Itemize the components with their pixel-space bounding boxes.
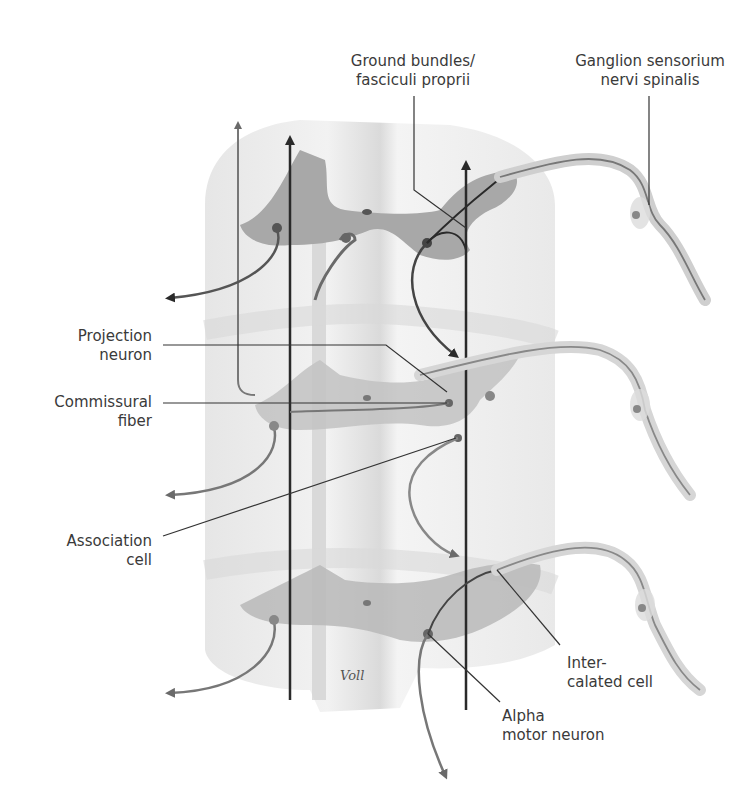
artist-signature: Voll <box>340 668 364 683</box>
label-alpha-motor-neuron: Alpha motor neuron <box>502 707 632 745</box>
label-association-cell-line1: Association <box>20 532 152 551</box>
label-association-cell: Association cell <box>20 532 152 570</box>
label-commissural-fiber-line2: fiber <box>20 412 152 431</box>
label-commissural-fiber: Commissural fiber <box>20 393 152 431</box>
label-ground-bundles: Ground bundles/ fasciculi proprii <box>338 52 488 90</box>
label-intercalated-cell-line1: Inter- <box>567 654 687 673</box>
label-projection-neuron-line2: neuron <box>20 346 152 365</box>
label-ground-bundles-line1: Ground bundles/ <box>338 52 488 71</box>
label-projection-neuron-line1: Projection <box>20 327 152 346</box>
label-intercalated-cell-line2: calated cell <box>567 673 687 692</box>
label-ganglion: Ganglion sensorium nervi spinalis <box>562 52 738 90</box>
label-ground-bundles-line2: fasciculi proprii <box>338 71 488 90</box>
label-alpha-motor-neuron-line1: Alpha <box>502 707 632 726</box>
label-intercalated-cell: Inter- calated cell <box>567 654 687 692</box>
label-ganglion-line1: Ganglion sensorium <box>562 52 738 71</box>
label-alpha-motor-neuron-line2: motor neuron <box>502 726 632 745</box>
label-association-cell-line2: cell <box>20 551 152 570</box>
label-projection-neuron: Projection neuron <box>20 327 152 365</box>
label-ganglion-line2: nervi spinalis <box>562 71 738 90</box>
label-commissural-fiber-line1: Commissural <box>20 393 152 412</box>
